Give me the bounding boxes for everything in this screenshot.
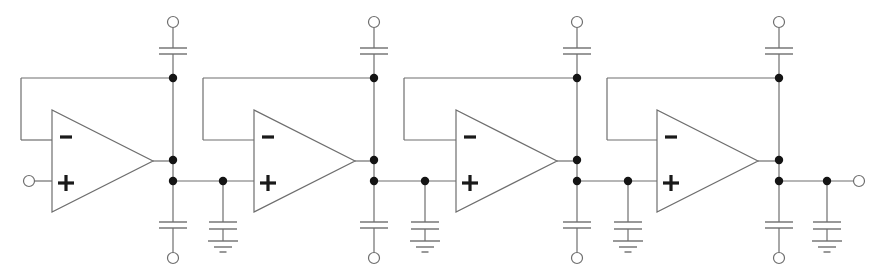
terminal-icon	[774, 17, 785, 28]
junction-dot-icon	[775, 177, 783, 185]
terminal-icon	[369, 17, 380, 28]
terminal-icon	[168, 17, 179, 28]
opamp-1	[52, 110, 153, 212]
terminal-icon	[24, 176, 35, 187]
opamp-icon	[456, 110, 557, 212]
opamp-3	[456, 110, 557, 212]
wires-layer	[21, 28, 854, 253]
junction-dot-icon	[573, 74, 581, 82]
junction-dot-icon	[573, 156, 581, 164]
junction-dot-icon	[219, 177, 227, 185]
terminal-icon	[854, 176, 865, 187]
junction-dot-icon	[370, 74, 378, 82]
opamp-4	[657, 110, 758, 212]
opamp-icon	[254, 110, 355, 212]
junction-dot-icon	[421, 177, 429, 185]
junction-dot-icon	[169, 156, 177, 164]
opamp-2	[254, 110, 355, 212]
junction-dot-icon	[624, 177, 632, 185]
terminal-icon	[369, 253, 380, 264]
junction-dot-icon	[169, 177, 177, 185]
terminal-icon	[774, 253, 785, 264]
junction-dot-icon	[169, 74, 177, 82]
junction-dot-icon	[823, 177, 831, 185]
junction-dot-icon	[775, 156, 783, 164]
junction-dot-icon	[370, 156, 378, 164]
junction-dot-icon	[573, 177, 581, 185]
terminal-icon	[572, 253, 583, 264]
junction-dot-icon	[775, 74, 783, 82]
terminal-icon	[168, 253, 179, 264]
junction-dot-icon	[370, 177, 378, 185]
opamp-icon	[52, 110, 153, 212]
opamp-icon	[657, 110, 758, 212]
terminal-icon	[572, 17, 583, 28]
circuit-schematic: Four-stage cascaded op-amp voltage-follo…	[0, 0, 882, 280]
